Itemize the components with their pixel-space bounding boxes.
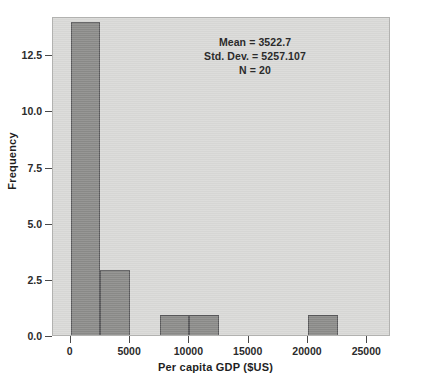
y-axis-tick-label: 12.5 [22,49,42,61]
x-axis-tick [188,336,189,343]
y-axis-tick-label: 2.5 [27,274,42,286]
x-axis-tick-label: 0 [67,345,73,357]
x-axis-tick [129,336,130,343]
x-axis-tick [70,336,71,343]
y-axis-tick [45,224,52,225]
statistics-annotation: Mean = 3522.7 Std. Dev. = 5257.107 N = 2… [190,36,320,78]
x-axis-tick-label: 20000 [292,345,321,357]
y-axis-tick [45,55,52,56]
x-axis-tick-label: 15000 [233,345,262,357]
y-axis-title: Frequency [6,111,18,211]
y-axis-tick-label: 5.0 [27,218,42,230]
y-axis-tick [45,168,52,169]
histogram-bar [189,315,219,336]
y-axis-tick [45,280,52,281]
x-axis-tick [248,336,249,343]
histogram-bar [100,270,130,336]
x-axis-tick-label: 5000 [117,345,140,357]
x-axis-title: Per capita GDP ($US) [0,361,431,373]
x-axis-tick [307,336,308,343]
annotation-std-dev: Std. Dev. = 5257.107 [190,50,320,64]
y-axis-tick-label: 10.0 [22,105,42,117]
annotation-mean: Mean = 3522.7 [190,36,320,50]
histogram-bar [308,315,338,336]
histogram-chart: Mean = 3522.7 Std. Dev. = 5257.107 N = 2… [0,0,431,387]
histogram-bar [160,315,190,336]
x-axis-tick-label: 25000 [352,345,381,357]
histogram-bar [71,22,101,336]
x-axis-tick [366,336,367,343]
annotation-n: N = 20 [190,64,320,78]
x-axis-tick-label: 10000 [174,345,203,357]
y-axis-tick [45,111,52,112]
y-axis-tick-label: 7.5 [27,162,42,174]
